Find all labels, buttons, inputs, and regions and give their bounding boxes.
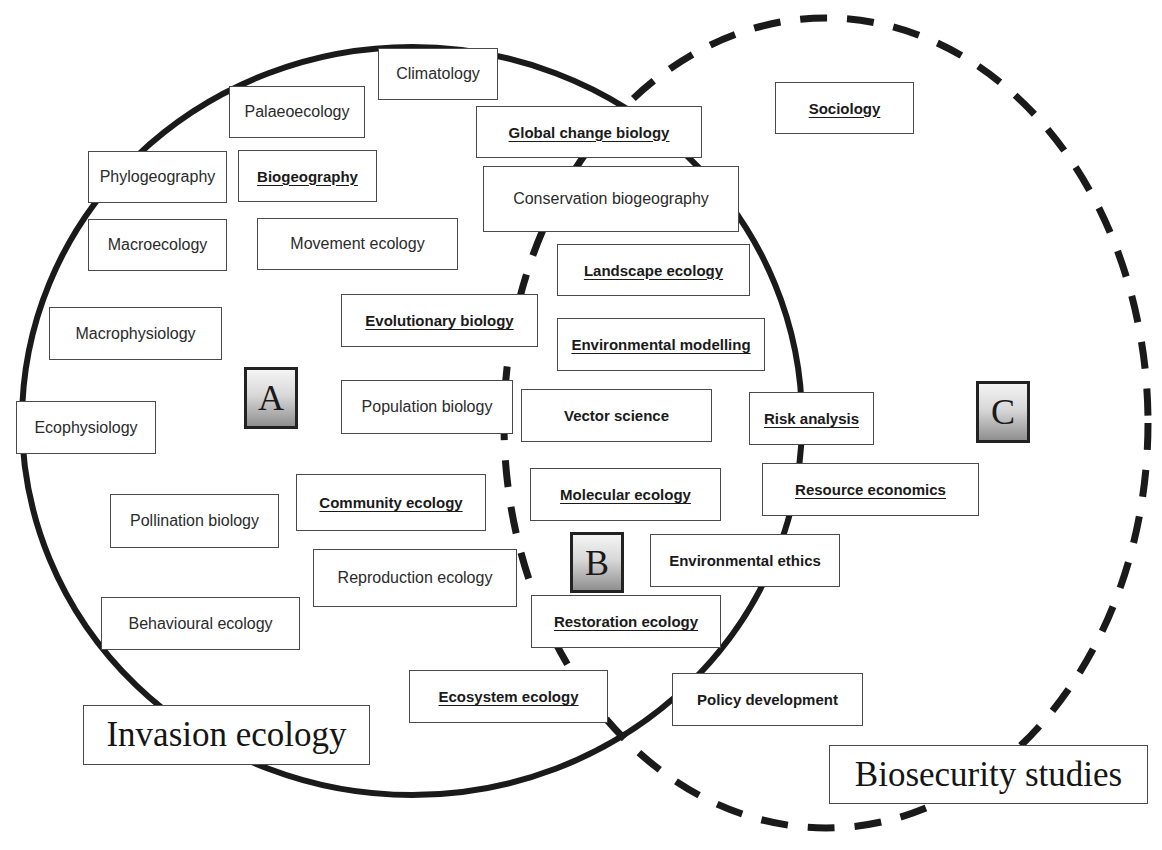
box-ecophysiology: Ecophysiology bbox=[16, 401, 156, 454]
label-environmental-ethics: Environmental ethics bbox=[669, 552, 821, 569]
box-movement-ecology: Movement ecology bbox=[257, 218, 458, 270]
label-restoration-ecology: Restoration ecology bbox=[554, 613, 698, 630]
label-sociology: Sociology bbox=[809, 100, 881, 117]
box-climatology: Climatology bbox=[378, 48, 498, 100]
venn-diagram: Climatology Palaeoecology Phylogeography… bbox=[0, 0, 1162, 850]
label-molecular-ecology: Molecular ecology bbox=[560, 486, 691, 503]
region-b-marker: B bbox=[570, 532, 624, 593]
label-behavioural-ecology: Behavioural ecology bbox=[128, 615, 272, 633]
label-climatology: Climatology bbox=[396, 65, 480, 83]
box-evolutionary-biology: Evolutionary biology bbox=[341, 294, 538, 347]
label-policy-development: Policy development bbox=[697, 691, 838, 708]
box-landscape-ecology: Landscape ecology bbox=[557, 244, 750, 296]
label-ecophysiology: Ecophysiology bbox=[34, 419, 137, 437]
label-phylogeography: Phylogeography bbox=[100, 168, 216, 186]
label-pollination-biology: Pollination biology bbox=[130, 512, 259, 530]
box-environmental-modelling: Environmental modelling bbox=[557, 318, 765, 371]
label-macroecology: Macroecology bbox=[108, 236, 208, 254]
region-a-marker: A bbox=[244, 367, 298, 429]
label-biogeography: Biogeography bbox=[257, 168, 358, 185]
label-movement-ecology: Movement ecology bbox=[290, 235, 424, 253]
box-community-ecology: Community ecology bbox=[296, 474, 486, 531]
label-environmental-modelling: Environmental modelling bbox=[571, 336, 750, 353]
box-palaeoecology: Palaeoecology bbox=[229, 86, 365, 138]
box-reproduction-ecology: Reproduction ecology bbox=[313, 549, 517, 607]
box-environmental-ethics: Environmental ethics bbox=[650, 534, 840, 587]
box-population-biology: Population biology bbox=[341, 380, 513, 434]
label-population-biology: Population biology bbox=[362, 398, 493, 416]
box-macrophysiology: Macrophysiology bbox=[49, 307, 222, 360]
label-risk-analysis: Risk analysis bbox=[764, 410, 859, 427]
region-c-marker: C bbox=[976, 381, 1030, 443]
box-ecosystem-ecology: Ecosystem ecology bbox=[409, 670, 608, 723]
label-conservation-biogeography: Conservation biogeography bbox=[513, 190, 709, 208]
box-molecular-ecology: Molecular ecology bbox=[530, 468, 721, 521]
region-b-label: B bbox=[585, 542, 609, 584]
label-global-change-biology: Global change biology bbox=[509, 124, 670, 141]
label-community-ecology: Community ecology bbox=[319, 494, 462, 511]
label-vector-science: Vector science bbox=[564, 407, 669, 424]
box-policy-development: Policy development bbox=[672, 673, 863, 726]
label-landscape-ecology: Landscape ecology bbox=[584, 262, 723, 279]
box-restoration-ecology: Restoration ecology bbox=[531, 595, 721, 648]
label-macrophysiology: Macrophysiology bbox=[75, 325, 195, 343]
box-resource-economics: Resource economics bbox=[762, 463, 979, 516]
box-global-change-biology: Global change biology bbox=[476, 106, 702, 158]
box-risk-analysis: Risk analysis bbox=[749, 392, 874, 445]
label-resource-economics: Resource economics bbox=[795, 481, 946, 498]
box-phylogeography: Phylogeography bbox=[88, 151, 227, 203]
title-invasion-ecology-text: Invasion ecology bbox=[106, 715, 346, 755]
label-palaeoecology: Palaeoecology bbox=[245, 103, 350, 121]
title-biosecurity-studies: Biosecurity studies bbox=[829, 745, 1148, 804]
box-sociology: Sociology bbox=[775, 82, 914, 134]
label-ecosystem-ecology: Ecosystem ecology bbox=[438, 688, 578, 705]
region-a-label: A bbox=[258, 377, 284, 419]
box-behavioural-ecology: Behavioural ecology bbox=[101, 597, 300, 650]
label-evolutionary-biology: Evolutionary biology bbox=[365, 312, 513, 329]
box-macroecology: Macroecology bbox=[88, 219, 227, 271]
box-conservation-biogeography: Conservation biogeography bbox=[483, 166, 739, 232]
box-vector-science: Vector science bbox=[521, 389, 712, 442]
title-biosecurity-studies-text: Biosecurity studies bbox=[855, 755, 1122, 795]
box-pollination-biology: Pollination biology bbox=[110, 494, 279, 548]
box-biogeography: Biogeography bbox=[238, 150, 377, 202]
label-reproduction-ecology: Reproduction ecology bbox=[338, 569, 493, 587]
region-c-label: C bbox=[991, 391, 1015, 433]
title-invasion-ecology: Invasion ecology bbox=[83, 705, 370, 765]
